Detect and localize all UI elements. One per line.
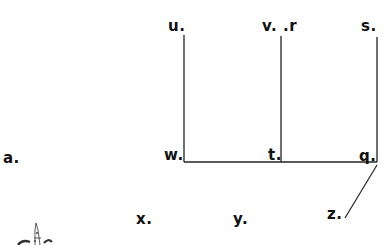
label-q: q. <box>359 149 376 164</box>
pointed-hat-drawing-icon <box>18 223 52 245</box>
label-t: t. <box>268 148 282 163</box>
label-y: y. <box>233 212 248 227</box>
line-q-z <box>345 165 377 218</box>
label-s: s. <box>361 19 377 34</box>
label-a: a. <box>3 151 20 166</box>
label-u: u. <box>168 19 185 34</box>
label-x: x. <box>136 212 152 227</box>
label-w: w. <box>164 148 184 163</box>
diagram-canvas: u. v. .r s. a. w. t. q. x. y. z. <box>0 0 382 245</box>
label-v-r: v. .r <box>262 19 297 34</box>
label-z: z. <box>327 207 342 222</box>
connecting-lines <box>0 0 382 245</box>
